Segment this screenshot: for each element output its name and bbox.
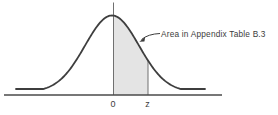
annotation-label: Area in Appendix Table B.3 xyxy=(161,29,266,39)
normal-curve-figure: Area in Appendix Table B.3 0 z xyxy=(0,0,278,115)
z-axis-label: z xyxy=(145,99,150,109)
shaded-area-between-0-and-z xyxy=(114,16,149,95)
figure-canvas: Area in Appendix Table B.3 0 z xyxy=(0,0,278,115)
normal-distribution-curve xyxy=(16,16,205,90)
zero-axis-label: 0 xyxy=(110,99,115,109)
